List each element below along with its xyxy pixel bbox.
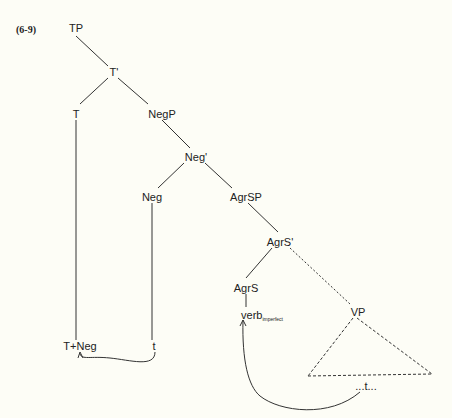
node-agrsp: AgrSP bbox=[230, 191, 262, 203]
node-agrs-bar: AgrS' bbox=[267, 236, 294, 248]
node-t-bar: T' bbox=[110, 66, 119, 78]
node-verb-trace: ...t... bbox=[355, 380, 376, 392]
node-t-plus-neg: T+Neg bbox=[63, 340, 96, 352]
node-vp: VP bbox=[351, 306, 366, 318]
node-neg-bar: Neg' bbox=[185, 151, 207, 163]
node-verb: verbimperfect bbox=[241, 309, 283, 325]
verb-text: verb bbox=[241, 309, 262, 321]
verb-subscript: imperfect bbox=[262, 316, 283, 322]
node-negp: NegP bbox=[148, 108, 176, 120]
node-t: T bbox=[73, 108, 80, 120]
node-agrs: AgrS bbox=[234, 282, 258, 294]
tree-edges bbox=[0, 0, 452, 418]
node-tp: TP bbox=[69, 22, 83, 34]
node-neg-trace: t bbox=[152, 340, 155, 352]
node-neg: Neg bbox=[142, 191, 162, 203]
